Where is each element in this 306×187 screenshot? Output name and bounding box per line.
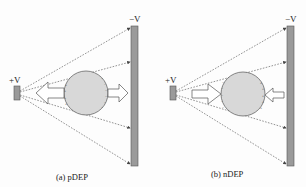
panel-pdep: +V −V ++++ −−−−−− (a) pDEP [9, 14, 141, 182]
dep-diagram: +V −V ++++ −−−−−− (a) pDEP +V −V −−−−− +… [0, 0, 306, 187]
svg-text:−: − [105, 95, 107, 99]
svg-text:−: − [105, 89, 107, 93]
svg-text:+: + [262, 87, 264, 91]
svg-text:+: + [260, 106, 262, 110]
source-electrode [170, 86, 176, 100]
svg-text:−: − [221, 94, 223, 98]
caption-pdep: (a) pDEP [56, 172, 88, 182]
svg-text:+: + [260, 81, 262, 85]
svg-text:+: + [262, 100, 264, 104]
target-electrode [287, 26, 294, 166]
force-arrow-right [108, 84, 128, 102]
caption-ndep: (b) nDEP [211, 169, 244, 179]
svg-text:−: − [104, 83, 106, 87]
target-electrode [131, 26, 138, 166]
svg-text:+: + [65, 102, 67, 106]
source-electrode [14, 86, 20, 100]
svg-text:−: − [222, 81, 224, 85]
particle-sphere [221, 72, 265, 116]
svg-text:−: − [222, 106, 224, 110]
force-arrow-left [36, 82, 64, 104]
force-arrow-left [265, 88, 284, 102]
svg-text:−: − [101, 77, 103, 81]
svg-text:+: + [262, 94, 264, 98]
svg-text:−: − [104, 101, 106, 105]
panel-ndep: +V −V −−−−− +++++ (b) nDEP [165, 14, 297, 179]
svg-text:+: + [65, 83, 67, 87]
svg-text:−: − [221, 87, 223, 91]
target-voltage-label: −V [285, 14, 297, 24]
svg-text:−: − [221, 100, 223, 104]
target-voltage-label: −V [129, 14, 141, 24]
source-voltage-label: +V [9, 75, 21, 85]
source-voltage-label: +V [165, 75, 177, 85]
svg-text:−: − [101, 106, 103, 110]
